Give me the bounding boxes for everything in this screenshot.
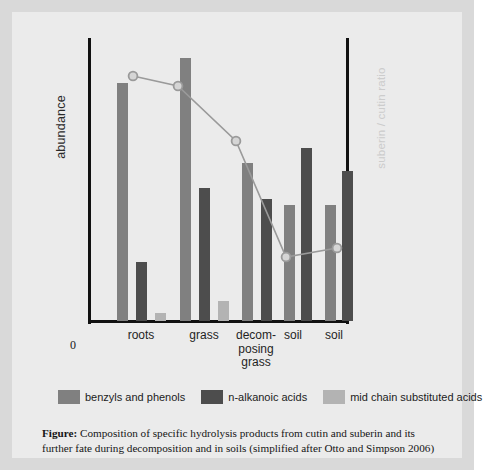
line-marker — [232, 137, 241, 146]
line-marker — [174, 82, 183, 91]
x-axis-label-line: grass — [216, 356, 296, 370]
line-marker — [282, 253, 291, 262]
x-axis-label-line: posing — [216, 343, 296, 357]
legend-label: mid chain substituted acids — [350, 391, 482, 403]
legend-item-1: n-alkanoic acids — [201, 390, 323, 404]
legend-label: n-alkanoic acids — [228, 391, 307, 403]
figure-caption: Figure: Composition of specific hydrolys… — [42, 426, 442, 455]
chart-legend: benzyls and phenolsn-alkanoic acidsmid c… — [58, 387, 428, 407]
figure-panel: 0 abundance suberin / cutin ratio rootsg… — [12, 12, 462, 458]
legend-item-0: benzyls and phenols — [58, 390, 201, 404]
line-series-overlay — [88, 38, 349, 321]
line-marker — [333, 244, 342, 253]
suberin-cutin-ratio-markers — [129, 72, 342, 262]
legend-swatch-icon — [58, 390, 80, 404]
legend-item-2: mid chain substituted acids — [323, 390, 487, 404]
axis-origin-label: 0 — [70, 338, 76, 353]
y-axis-right-label: suberin / cutin ratio — [375, 53, 387, 183]
legend-label: benzyls and phenols — [85, 391, 185, 403]
y-axis-left-label: abundance — [54, 72, 68, 182]
x-axis-label-4: soil — [294, 329, 374, 343]
x-axis-category-labels: rootsgrassdecom-posinggrasssoilsoil — [88, 325, 349, 373]
figure-caption-text: Composition of specific hydrolysis produ… — [42, 427, 434, 454]
line-marker — [129, 72, 138, 81]
x-axis-label-line: soil — [294, 329, 374, 343]
suberin-cutin-ratio-line — [133, 76, 337, 257]
legend-swatch-icon — [201, 390, 223, 404]
figure-caption-label: Figure: — [42, 427, 77, 439]
legend-swatch-icon — [323, 390, 345, 404]
